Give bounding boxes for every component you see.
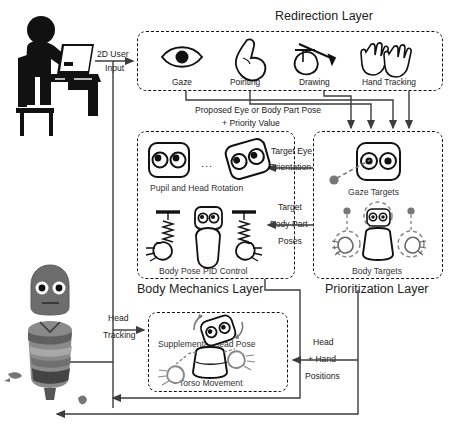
body-mechanics-layer-title: Body Mechanics Layer (137, 283, 263, 296)
edge-drawing-out (324, 91, 351, 128)
ellipsis-pupil-head: ... (201, 158, 213, 170)
module-label-pupil-head-rotation: Pupil and Head Rotation (150, 184, 243, 193)
module-label-body-pose-pid: Body Pose PID Control (159, 267, 247, 276)
module-label-torso-movement: Torso Movement (179, 379, 243, 388)
edge-label-head-hand-line2: + Hand (308, 355, 336, 364)
robot-photo-icon (4, 265, 87, 404)
module-label-supplemental-head-pose: Supplemental Head Pose (158, 340, 255, 349)
edge-label-head-tracking-line2: Tracking (103, 331, 136, 340)
module-label-hand-tracking: Hand Tracking (362, 78, 416, 87)
module-label-drawing: Drawing (299, 78, 330, 87)
redirection-layer-title: Redirection Layer (275, 10, 373, 23)
edge-label-proposed-pose-line1: Proposed Eye or Body Part Pose (195, 106, 321, 115)
module-label-body-targets: Body Targets (352, 267, 402, 276)
edge-label-target-body-line2: Body Part (270, 220, 308, 229)
module-label-gaze: Gaze (172, 78, 192, 87)
edge-label-user-input-line1: 2D User (97, 50, 129, 59)
module-label-gaze-targets: Gaze Targets (348, 188, 399, 197)
person-at-laptop-icon (16, 16, 101, 136)
diagram-canvas: Redirection Layer Body Mechanics Layer P… (0, 0, 453, 434)
edge-label-target-body-line3: Poses (278, 237, 302, 246)
edge-label-target-body-line1: Target (278, 203, 302, 212)
prioritization-layer-title: Prioritization Layer (325, 283, 429, 296)
edge-label-head-hand-line3: Positions (305, 372, 340, 381)
edge-label-head-hand-line1: Head (313, 338, 334, 347)
edge-label-user-input-line2: Input (105, 64, 124, 73)
edge-label-proposed-pose-line2: + Priority Value (222, 119, 280, 128)
edge-label-target-eye-line2: Orientation (269, 163, 311, 172)
prioritization-layer-box (313, 131, 443, 279)
edge-label-target-eye-line1: Target Eye (271, 147, 312, 156)
module-label-pointing: Pointing (230, 78, 260, 87)
edge-label-head-tracking-line1: Head (108, 314, 129, 323)
